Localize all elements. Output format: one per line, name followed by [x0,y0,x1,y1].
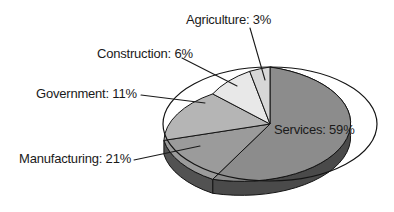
leader-line-construction [182,58,237,86]
slice-label-services: Services: 59% [274,123,355,136]
leader-line-government [141,95,205,103]
slice-label-agriculture: Agriculture: 3% [186,13,271,26]
slice-label-manufacturing: Manufacturing: 21% [19,152,131,165]
pie-chart-graphic [0,0,394,212]
pie-chart-figure: Agriculture: 3% Construction: 6% Governm… [0,0,394,212]
slice-label-government: Government: 11% [36,87,137,100]
slice-label-construction: Construction: 6% [97,47,193,60]
